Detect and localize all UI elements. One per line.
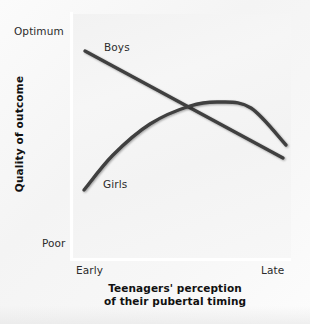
series-label-boys: Boys: [104, 41, 130, 53]
y-axis-tick-poor: Poor: [42, 237, 66, 249]
x-axis-tick-late: Late: [261, 264, 284, 276]
chart-figure: Optimum Poor Early Late Quality of outco…: [0, 0, 310, 324]
x-axis-line: [70, 258, 291, 261]
x-axis-title-line-2: of their pubertal timing: [60, 295, 290, 308]
y-axis-tick-optimum: Optimum: [14, 25, 64, 37]
x-axis-title-line-1: Teenagers' perception: [60, 282, 290, 295]
x-axis-title: Teenagers' perception of their pubertal …: [60, 282, 290, 308]
series-label-girls: Girls: [103, 178, 127, 190]
y-axis-title: Quality of outcome: [13, 74, 25, 194]
y-axis-line: [70, 12, 73, 261]
x-axis-tick-early: Early: [76, 264, 103, 276]
